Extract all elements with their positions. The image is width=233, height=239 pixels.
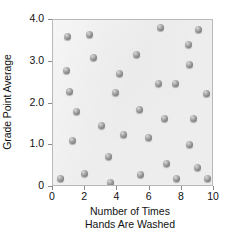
x-axis-tick-label: 8 (168, 190, 194, 202)
data-point (186, 61, 193, 68)
data-point (203, 90, 210, 97)
data-point (194, 164, 201, 171)
data-point (90, 54, 97, 61)
data-point (107, 179, 114, 186)
data-point (172, 80, 179, 87)
y-axis-tick (48, 186, 52, 187)
data-point (204, 175, 211, 182)
data-point (163, 160, 170, 167)
data-point (186, 141, 193, 148)
data-point (195, 26, 202, 33)
data-point (155, 80, 162, 87)
y-axis-tick-label: 1.0 (10, 137, 44, 149)
y-axis-tick-label: 2.0 (10, 96, 44, 108)
data-point (133, 51, 140, 58)
data-point (98, 122, 105, 129)
x-axis-tick-label: 10 (200, 190, 226, 202)
y-axis-tick-label: 4.0 (10, 12, 44, 24)
y-axis-tick (48, 61, 52, 62)
scatter-plot-figure: Grade Point Average Number of Times Hand… (0, 0, 233, 239)
x-axis-tick-label: 4 (103, 190, 129, 202)
plot-area (52, 19, 213, 186)
data-point (57, 175, 64, 182)
data-point (190, 115, 197, 122)
data-point (185, 41, 192, 48)
y-axis-tick (48, 144, 52, 145)
data-point (63, 67, 70, 74)
data-point (136, 106, 143, 113)
data-point (69, 137, 76, 144)
x-axis-title-line-1: Number of Times (40, 205, 220, 218)
x-axis-title-line-2: Hands Are Washed (40, 218, 220, 231)
y-axis-tick (48, 103, 52, 104)
data-point (120, 131, 127, 138)
data-point (81, 170, 88, 177)
y-axis-tick-label: 0 (10, 179, 44, 191)
data-point (105, 153, 112, 160)
x-axis-title: Number of Times Hands Are Washed (40, 205, 220, 231)
y-axis-tick-label: 3.0 (10, 54, 44, 66)
y-axis-tick (48, 19, 52, 20)
data-point (112, 89, 119, 96)
data-point (161, 115, 168, 122)
x-axis-tick-label: 0 (39, 190, 65, 202)
data-point (157, 24, 164, 31)
data-point (116, 70, 123, 77)
data-point (66, 88, 73, 95)
data-point (145, 134, 152, 141)
data-point (73, 108, 80, 115)
data-point (137, 171, 144, 178)
data-point (86, 31, 93, 38)
x-axis-tick-label: 2 (71, 190, 97, 202)
x-axis-tick-label: 6 (136, 190, 162, 202)
data-point (173, 175, 180, 182)
data-point (64, 33, 71, 40)
